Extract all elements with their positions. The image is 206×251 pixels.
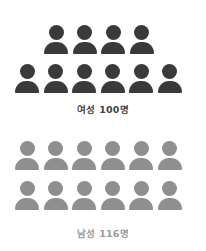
person-icon [158, 64, 182, 94]
person-icon [72, 64, 96, 94]
person-icon [44, 181, 68, 211]
person-icon [101, 141, 125, 171]
female-row-1 [44, 25, 154, 55]
person-icon [72, 181, 96, 211]
male-row-2 [15, 181, 182, 211]
person-icon [44, 25, 68, 55]
person-icon [15, 64, 39, 94]
person-icon [129, 141, 153, 171]
person-icon [73, 25, 97, 55]
person-icon [130, 25, 154, 55]
person-icon [15, 181, 39, 211]
female-label: 여성 100명 [0, 102, 206, 116]
person-icon [101, 25, 125, 55]
person-icon [44, 141, 68, 171]
person-icon [15, 141, 39, 171]
person-icon [101, 64, 125, 94]
person-icon [44, 64, 68, 94]
person-icon [129, 64, 153, 94]
male-label: 남성 116명 [0, 226, 206, 240]
female-row-2 [15, 64, 182, 94]
person-icon [101, 181, 125, 211]
person-icon [158, 141, 182, 171]
person-icon [158, 181, 182, 211]
male-row-1 [15, 141, 182, 171]
person-icon [72, 141, 96, 171]
person-icon [129, 181, 153, 211]
